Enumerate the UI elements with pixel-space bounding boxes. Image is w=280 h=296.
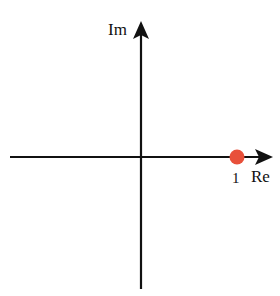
imaginary-axis — [133, 21, 149, 289]
real-axis-label: Re — [251, 168, 270, 185]
point-one-marker — [230, 150, 245, 165]
point-label: 1 — [232, 171, 240, 186]
complex-plane-diagram — [0, 0, 280, 296]
imaginary-axis-label: Im — [108, 21, 127, 38]
